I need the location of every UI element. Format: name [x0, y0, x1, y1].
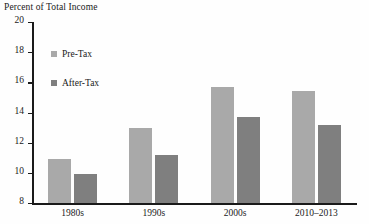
y-axis-tick-label: 14	[2, 106, 24, 116]
legend-swatch-icon	[51, 51, 57, 57]
bar-pre-tax-1980s	[48, 159, 71, 203]
legend-label: Pre-Tax	[62, 49, 92, 59]
y-axis-tick-label: 20	[2, 15, 24, 25]
chart-title: Percent of Total Income	[4, 2, 98, 12]
legend-item: After-Tax	[51, 77, 99, 89]
bar-pre-tax-2010-2013	[292, 91, 315, 203]
y-axis-tick-label: 12	[2, 136, 24, 146]
y-axis-tick-label: 16	[2, 75, 24, 85]
y-axis-tick	[28, 52, 32, 53]
y-axis-tick	[28, 173, 32, 174]
chart-figure: Percent of Total Income 8101214161820 19…	[0, 0, 369, 224]
x-axis-label: 1980s	[32, 208, 113, 218]
bar-after-tax-1980s	[74, 174, 97, 203]
legend-label: After-Tax	[62, 78, 99, 88]
bar-after-tax-2000s	[237, 117, 260, 203]
y-axis-line	[32, 22, 34, 203]
bar-pre-tax-2000s	[211, 87, 234, 203]
bar-pre-tax-1990s	[129, 128, 152, 203]
bar-after-tax-1990s	[155, 155, 178, 203]
y-axis-tick	[28, 22, 32, 23]
legend-item: Pre-Tax	[51, 48, 99, 60]
y-axis-tick-label: 10	[2, 166, 24, 176]
x-axis-label: 2010–2013	[276, 208, 357, 218]
bar-after-tax-2010-2013	[318, 125, 341, 203]
x-axis-label: 2000s	[195, 208, 276, 218]
y-axis-tick	[28, 82, 32, 83]
x-axis-label: 1990s	[113, 208, 194, 218]
x-axis-line	[32, 203, 357, 205]
y-axis-tick-label: 18	[2, 45, 24, 55]
y-axis-tick	[28, 143, 32, 144]
y-axis-tick	[28, 203, 32, 204]
legend-swatch-icon	[51, 80, 57, 86]
y-axis-tick-label: 8	[2, 196, 24, 206]
y-axis-tick	[28, 113, 32, 114]
chart-legend: Pre-TaxAfter-Tax	[51, 48, 99, 106]
